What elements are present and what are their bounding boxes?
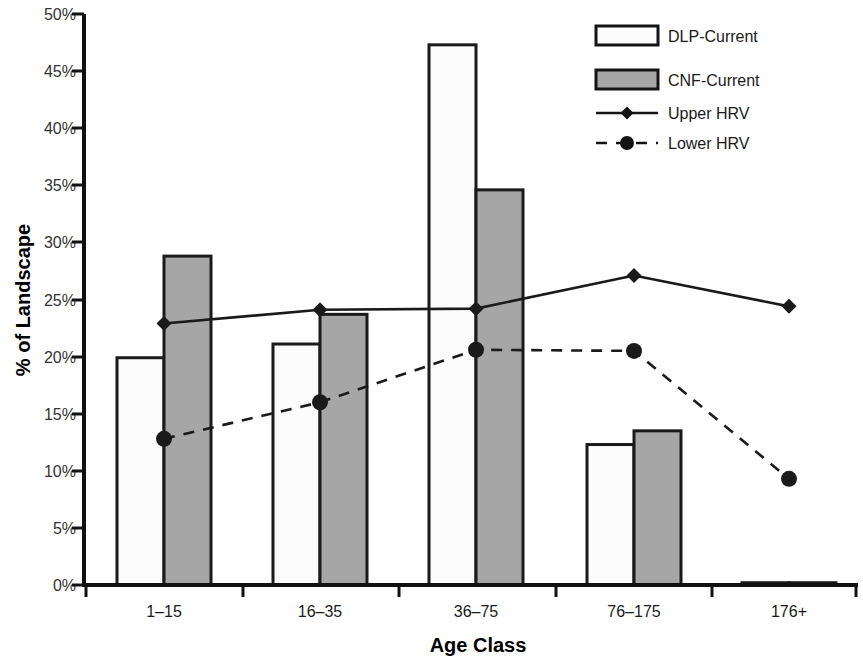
bar [273, 344, 320, 585]
y-tick-label: 20% [44, 349, 76, 366]
legend-item-lower-hrv[interactable]: Lower HRV [596, 135, 750, 152]
x-tick-label: 176+ [771, 603, 807, 620]
circle-marker [468, 342, 484, 358]
bar-series-cnf-current [164, 190, 836, 585]
chart-legend: DLP-Current CNF-Current Upper HRV Lower … [596, 26, 760, 152]
y-tick-label: 50% [44, 6, 76, 23]
legend-item-dlp-current[interactable]: DLP-Current [596, 26, 758, 45]
x-tick-label: 76–175 [607, 603, 660, 620]
legend-label: Upper HRV [668, 105, 750, 122]
y-axis-tick-labels: 50% 45% 40% 35% 30% 25% 20% 15% 10% 5% 0… [44, 6, 76, 594]
x-axis-title: Age Class [430, 634, 527, 656]
gray-bar-swatch [596, 70, 658, 89]
diamond-marker [627, 268, 642, 283]
y-tick-label: 25% [44, 292, 76, 309]
y-tick-label: 35% [44, 177, 76, 194]
bar-series-dlp-current [117, 45, 789, 585]
legend-item-cnf-current[interactable]: CNF-Current [596, 70, 760, 89]
age-class-landscape-chart: % of Landscape 50% 45% 40% 35% 30% 25% 2… [0, 0, 863, 660]
white-bar-swatch [596, 26, 658, 45]
legend-item-upper-hrv[interactable]: Upper HRV [596, 105, 750, 122]
y-axis-title: % of Landscape [12, 224, 34, 376]
legend-label: Lower HRV [668, 135, 750, 152]
solid-line-diamond-swatch [596, 107, 658, 120]
bar [117, 358, 164, 585]
y-tick-label: 40% [44, 120, 76, 137]
bar [320, 314, 367, 585]
y-tick-label: 10% [44, 463, 76, 480]
bar [429, 45, 476, 585]
x-tick-label: 1–15 [146, 603, 182, 620]
x-tick-label: 16–35 [298, 603, 343, 620]
legend-label: DLP-Current [668, 28, 758, 45]
x-axis-tick-labels: 1–15 16–35 36–75 76–175 176+ [146, 603, 807, 620]
bar [164, 256, 211, 585]
circle-marker [312, 394, 328, 410]
diamond-marker [782, 299, 797, 314]
circle-marker [781, 471, 797, 487]
dashed-line-circle-swatch [596, 136, 658, 150]
chart-container: % of Landscape 50% 45% 40% 35% 30% 25% 2… [0, 0, 863, 660]
circle-marker [156, 431, 172, 447]
y-tick-label: 15% [44, 406, 76, 423]
circle-marker [626, 343, 642, 359]
y-tick-label: 30% [44, 234, 76, 251]
x-tick-label: 36–75 [454, 603, 499, 620]
legend-label: CNF-Current [668, 72, 760, 89]
bar [476, 190, 523, 585]
y-tick-label: 45% [44, 63, 76, 80]
plot-area [117, 45, 836, 585]
bar [634, 431, 681, 585]
bar [587, 445, 634, 585]
